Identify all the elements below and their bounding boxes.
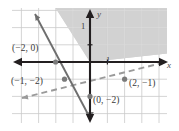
graph-canvas xyxy=(0,0,179,131)
y-axis-label: y xyxy=(97,10,101,19)
y-axis-unit-tick-label: 1 xyxy=(81,22,85,31)
point-marker-b xyxy=(62,77,67,82)
point-marker-d xyxy=(122,77,127,82)
point-label-d: (2, −1) xyxy=(129,79,156,89)
coordinate-plane-figure: (−2, 0) (−1, −2) (0, −2) (2, −1) y x 1 1 xyxy=(0,0,179,131)
point-label-b: (−1, −2) xyxy=(11,77,43,87)
point-marker-a xyxy=(53,59,58,64)
point-label-a: (−2, 0) xyxy=(12,44,39,54)
x-axis-unit-tick-label: 1 xyxy=(106,56,110,65)
x-axis-label: x xyxy=(167,61,171,70)
point-marker-c xyxy=(87,94,92,99)
point-label-c: (0, −2) xyxy=(93,96,120,106)
